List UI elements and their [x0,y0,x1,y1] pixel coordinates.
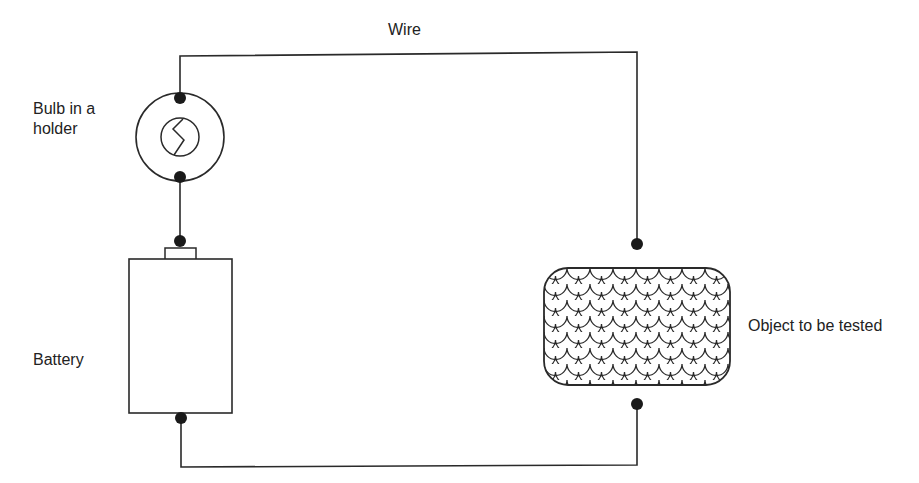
object-terminal-top [631,238,643,250]
bulb-in-holder [136,92,224,183]
object-to-be-tested [544,238,730,410]
battery-terminal-top [174,235,186,247]
wire-bottom [181,404,637,467]
object-terminal-bottom [631,398,643,410]
battery-label: Battery [33,350,84,370]
circuit-diagram [0,0,919,483]
battery-terminal-bottom [175,412,187,424]
object-label: Object to be tested [748,316,882,336]
wire-label: Wire [388,20,421,40]
battery [129,235,232,424]
wire-top [180,52,637,244]
bulb-label: Bulb in a holder [33,99,113,139]
bulb-terminal-top [174,92,186,104]
battery-body [129,259,232,413]
wire [180,52,637,467]
object-texture [544,268,730,385]
bulb-terminal-bottom [174,171,186,183]
